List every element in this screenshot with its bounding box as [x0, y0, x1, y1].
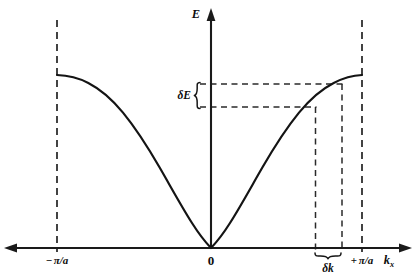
right-tick-body: π/a [359, 254, 374, 266]
x-axis-right-arrowhead-icon [399, 243, 412, 252]
right-tick-sign: + [351, 254, 357, 266]
left-tick-body: π/a [54, 254, 69, 266]
left-zone-boundary-tick-label: −π/a [46, 254, 69, 266]
diagram-canvas: E kx −π/a +π/a 0 δE δk [0, 0, 416, 276]
energy-band-diagram: E kx −π/a +π/a 0 δE δk [0, 0, 416, 276]
x-axis-left-arrowhead-icon [4, 243, 17, 252]
delta-k-brace-icon [315, 253, 341, 259]
x-axis-label-subscript: x [389, 260, 394, 269]
right-zone-boundary-tick-label: +π/a [351, 254, 374, 266]
origin-label: 0 [208, 253, 215, 268]
delta-e-brace-icon [194, 82, 200, 108]
y-axis-arrowhead-icon [207, 8, 216, 21]
left-tick-sign: − [46, 254, 52, 266]
delta-e-label: δE [177, 89, 191, 101]
delta-k-label: δk [322, 262, 334, 274]
y-axis-label: E [191, 7, 200, 21]
x-axis-label: kx [384, 253, 394, 269]
